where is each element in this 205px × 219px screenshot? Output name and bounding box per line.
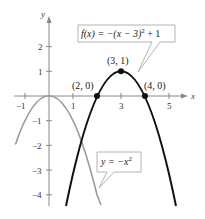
y-tick-label: 2 xyxy=(38,42,43,52)
x-axis-arrow-icon xyxy=(181,94,188,99)
point-label: (4, 0) xyxy=(144,80,166,92)
callout-g-text: y = −x2 xyxy=(100,155,132,167)
x-tick-label: 1 xyxy=(71,101,76,111)
point-label: (3, 1) xyxy=(107,55,129,67)
y-tick-label: −2 xyxy=(32,141,42,151)
chart: x y −1 1 3 5 2 1 −1 −2 −3 −4 xyxy=(0,0,205,219)
point-4-0 xyxy=(142,93,148,99)
x-tick-label: 5 xyxy=(167,101,172,111)
y-tick-label: −1 xyxy=(32,116,42,126)
parabola-y-neg-x-squared xyxy=(15,96,101,205)
y-tick-label: −3 xyxy=(32,166,42,176)
callout-f-text: f(x) = −(x − 3)2 + 1 xyxy=(81,27,160,40)
x-tick-label: 3 xyxy=(119,101,124,111)
point-label: (2, 0) xyxy=(72,80,94,92)
y-tick-label: −4 xyxy=(32,190,42,200)
y-tick-label: 1 xyxy=(38,67,43,77)
point-2-0 xyxy=(94,93,100,99)
point-3-1 xyxy=(118,68,124,74)
y-axis-arrow-icon xyxy=(47,16,52,23)
x-tick-label: −1 xyxy=(16,101,26,111)
callout-g: y = −x2 xyxy=(97,152,141,188)
y-axis-label: y xyxy=(40,9,45,19)
x-axis-label: x xyxy=(190,91,195,101)
parabola-f xyxy=(66,71,176,206)
